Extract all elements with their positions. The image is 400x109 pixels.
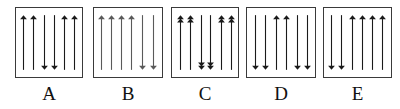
arrow-down-icon: [336, 14, 347, 71]
arrow-field-a: [16, 8, 82, 77]
panel-label-e: E: [323, 82, 392, 106]
panel-d: [246, 7, 316, 78]
arrow-up-icon: [126, 14, 137, 71]
arrow-up-icon: [377, 14, 388, 71]
arrow-down-icon: [148, 14, 159, 71]
arrow-up-icon: [281, 14, 292, 71]
arrow-up-icon: [28, 14, 39, 71]
arrow-down-icon: [302, 14, 313, 71]
panel-label-b: B: [93, 82, 163, 106]
panel-a: [15, 7, 83, 78]
arrow-down-icon: [49, 14, 60, 71]
arrow-down-icon: [205, 14, 216, 71]
arrow-field-e: [324, 8, 391, 77]
panel-e: [323, 7, 392, 78]
arrow-down-icon: [260, 14, 271, 71]
panel-label-c: C: [171, 82, 239, 106]
arrow-up-icon: [69, 14, 80, 71]
arrow-up-icon: [357, 14, 368, 71]
arrow-up-icon: [226, 14, 237, 71]
arrow-field-d: [247, 8, 315, 77]
panel-label-a: A: [15, 82, 83, 106]
panel-label-d: D: [246, 82, 316, 106]
arrow-field-c: [172, 8, 238, 77]
panel-b: [93, 7, 163, 78]
arrow-down-icon: [137, 14, 148, 71]
arrow-up-icon: [185, 14, 196, 71]
spin-arrow-figure: ABCDE: [0, 0, 400, 109]
arrow-field-b: [94, 8, 162, 77]
panel-c: [171, 7, 239, 78]
